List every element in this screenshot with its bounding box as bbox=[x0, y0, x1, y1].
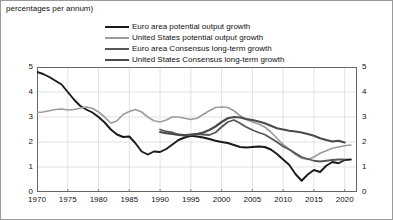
chart-title: percentages per annum) bbox=[6, 4, 93, 13]
chart-figure: percentages per annum) Euro area potenti… bbox=[0, 0, 393, 220]
y-axis-tick-label-left: 4 bbox=[11, 87, 33, 96]
y-axis-tick-label-left: 5 bbox=[11, 62, 33, 71]
legend-item-label: Euro area potential output growth bbox=[132, 21, 250, 32]
y-axis-tick-label-left: 3 bbox=[11, 112, 33, 121]
legend-line-icon bbox=[105, 48, 129, 50]
legend-line-icon bbox=[105, 26, 129, 28]
series-line-0 bbox=[37, 72, 351, 181]
plot-svg bbox=[37, 67, 357, 192]
y-axis-tick-label-left: 1 bbox=[11, 162, 33, 171]
y-axis-tick-label-right: 2 bbox=[362, 137, 384, 146]
legend-line-icon bbox=[105, 37, 129, 39]
y-axis-tick-label-left: 2 bbox=[11, 137, 33, 146]
y-axis-tick-label-right: 5 bbox=[362, 62, 384, 71]
y-axis-tick-label-right: 3 bbox=[362, 112, 384, 121]
legend-item: Euro area Consensus long-term growth bbox=[105, 43, 285, 54]
x-axis-tick-label: 2020 bbox=[325, 195, 365, 204]
chart-legend: Euro area potential output growthUnited … bbox=[105, 21, 285, 65]
plot-area bbox=[37, 67, 357, 192]
legend-item-label: United States potential output growth bbox=[132, 32, 263, 43]
y-axis-tick-label-right: 0 bbox=[362, 187, 384, 196]
legend-item: United States Consensus long-term growth bbox=[105, 54, 285, 65]
y-axis-tick-label-right: 1 bbox=[362, 162, 384, 171]
y-axis-tick-label-right: 4 bbox=[362, 87, 384, 96]
legend-item: United States potential output growth bbox=[105, 32, 285, 43]
legend-item-label: Euro area Consensus long-term growth bbox=[132, 43, 272, 54]
legend-item: Euro area potential output growth bbox=[105, 21, 285, 32]
legend-item-label: United States Consensus long-term growth bbox=[132, 54, 285, 65]
legend-line-icon bbox=[105, 59, 129, 61]
